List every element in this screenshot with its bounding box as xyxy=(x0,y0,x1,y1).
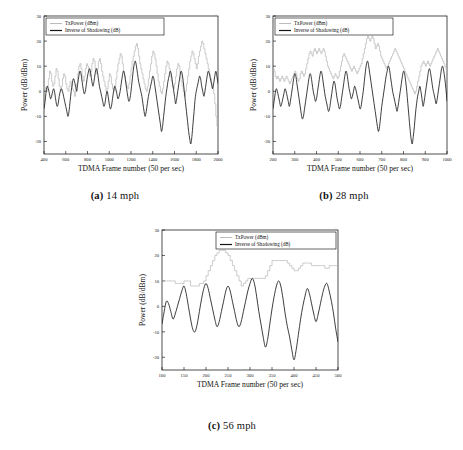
corner-stamp: — xyxy=(215,13,218,15)
x-tick-label: 1000 xyxy=(442,157,452,162)
corner-stamp: — xyxy=(335,227,338,229)
caption-b-text: 28 mph xyxy=(336,190,369,201)
caption-a: (a) 14 mph xyxy=(4,190,226,201)
y-tick-label: 10 xyxy=(265,64,270,69)
x-tick-label: 350 xyxy=(269,373,277,378)
caption-b-prefix: (b) xyxy=(319,190,332,201)
x-tick-label: 1800 xyxy=(192,157,202,162)
x-tick-label: 900 xyxy=(422,157,430,162)
x-tick-label: 2000 xyxy=(213,157,223,162)
x-tick-label: 200 xyxy=(270,157,278,162)
y-axis-title: Power (dB/dBm) xyxy=(249,58,258,111)
legend-label-txpower: TxPower (dBm) xyxy=(65,20,99,27)
plot-frame xyxy=(273,16,447,154)
caption-c: (c) 56 mph xyxy=(116,420,348,431)
x-tick-label: 400 xyxy=(313,157,321,162)
y-tick-label: -10 xyxy=(153,330,160,335)
figure-container: 4006008001000120014001600180020003020100… xyxy=(0,0,463,450)
caption-a-prefix: (a) xyxy=(91,190,104,201)
plot-c: 1001502002503003504004505003020100-10-20… xyxy=(116,218,348,406)
x-tick-label: 700 xyxy=(378,157,386,162)
x-axis-title: TDMA Frame number (50 per sec) xyxy=(78,164,185,173)
y-tick-label: 0 xyxy=(39,89,42,94)
y-tick-label: 30 xyxy=(154,228,159,233)
x-tick-label: 450 xyxy=(313,373,321,378)
x-axis-title: TDMA Frame number (50 per sec) xyxy=(197,380,304,389)
x-tick-label: 1000 xyxy=(105,157,115,162)
x-tick-label: 250 xyxy=(225,373,233,378)
y-tick-label: 20 xyxy=(36,39,41,44)
x-tick-label: 300 xyxy=(291,157,299,162)
x-tick-label: 100 xyxy=(159,373,167,378)
y-tick-label: 0 xyxy=(268,89,271,94)
caption-c-text: 56 mph xyxy=(223,420,256,431)
y-tick-label: -20 xyxy=(264,139,271,144)
trace-txpower xyxy=(44,41,218,126)
y-tick-label: -10 xyxy=(264,114,271,119)
x-tick-label: 1600 xyxy=(170,157,180,162)
caption-b: (b) 28 mph xyxy=(233,190,455,201)
plot-b: 20030040050060070080090010003020100-10-2… xyxy=(233,6,455,188)
x-tick-label: 500 xyxy=(335,373,343,378)
x-tick-label: 150 xyxy=(181,373,189,378)
caption-a-text: 14 mph xyxy=(106,190,139,201)
x-tick-label: 1400 xyxy=(148,157,158,162)
x-tick-label: 500 xyxy=(335,157,343,162)
y-tick-label: 30 xyxy=(265,14,270,19)
legend-label-inverse-shadowing: Inverse of Shadowing (dB) xyxy=(294,27,350,34)
y-tick-label: 10 xyxy=(36,64,41,69)
corner-stamp: — xyxy=(444,13,447,15)
x-tick-label: 800 xyxy=(84,157,92,162)
y-tick-label: 30 xyxy=(36,14,41,19)
figure-panel-b: 20030040050060070080090010003020100-10-2… xyxy=(233,6,455,211)
y-axis-title: Power (dB/dBm) xyxy=(138,273,147,326)
x-tick-label: 400 xyxy=(291,373,299,378)
x-tick-label: 600 xyxy=(62,157,70,162)
legend-label-txpower: TxPower (dBm) xyxy=(294,20,328,27)
y-tick-label: -10 xyxy=(35,114,42,119)
legend-label-inverse-shadowing: Inverse of Shadowing (dB) xyxy=(65,27,121,34)
y-tick-label: 20 xyxy=(265,39,270,44)
y-axis-title: Power (dB/dBm) xyxy=(20,58,29,111)
x-tick-label: 300 xyxy=(247,373,255,378)
trace-txpower xyxy=(273,36,447,94)
trace-inverse-shadowing xyxy=(162,278,338,359)
caption-c-prefix: (c) xyxy=(208,420,220,431)
plot-frame xyxy=(162,230,338,370)
plot-a: 4006008001000120014001600180020003020100… xyxy=(4,6,226,188)
figure-panel-c: 1001502002503003504004505003020100-10-20… xyxy=(116,218,348,446)
trace-txpower xyxy=(162,250,338,286)
y-tick-label: 20 xyxy=(154,253,159,258)
x-tick-label: 400 xyxy=(41,157,49,162)
figure-panel-a: 4006008001000120014001600180020003020100… xyxy=(4,6,226,211)
x-tick-label: 1200 xyxy=(126,157,136,162)
x-tick-label: 800 xyxy=(400,157,408,162)
x-axis-title: TDMA Frame number (50 per sec) xyxy=(307,164,414,173)
y-tick-label: -20 xyxy=(153,355,160,360)
legend-label-inverse-shadowing: Inverse of Shadowing (dB) xyxy=(235,241,291,248)
y-tick-label: 0 xyxy=(157,304,160,309)
y-tick-label: 10 xyxy=(154,279,159,284)
legend-label-txpower: TxPower (dBm) xyxy=(235,234,269,241)
x-tick-label: 200 xyxy=(203,373,211,378)
y-tick-label: -20 xyxy=(35,139,42,144)
trace-inverse-shadowing xyxy=(273,61,447,144)
x-tick-label: 600 xyxy=(357,157,365,162)
